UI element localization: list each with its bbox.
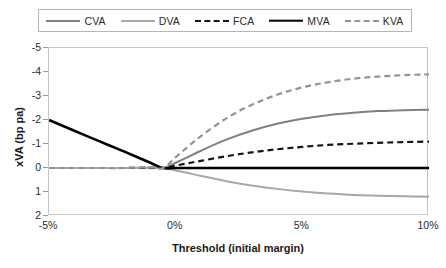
legend-line-fca — [195, 20, 229, 22]
y-tick-mark — [43, 143, 48, 144]
legend-swatch-kva — [345, 16, 379, 26]
legend-entry-fca: FCA — [195, 15, 255, 27]
legend-swatch-fca — [195, 16, 229, 26]
legend-swatch-cva — [46, 16, 80, 26]
legend-line-dva — [121, 20, 155, 22]
x-tick-label: 0% — [167, 219, 182, 231]
y-tick-label: -2 — [32, 113, 41, 125]
y-tick-label: -4 — [32, 65, 41, 77]
y-tick-mark — [43, 191, 48, 192]
y-axis-title: xVA (bp pa) — [13, 82, 25, 192]
series-canvas — [49, 48, 429, 216]
series-line-dva — [49, 168, 429, 197]
y-tick-label: 0 — [35, 161, 41, 173]
x-tick-label: 10% — [417, 219, 438, 231]
y-tick-mark — [43, 167, 48, 168]
series-line-mva — [49, 120, 429, 168]
legend-line-cva — [46, 20, 80, 22]
y-tick-mark — [43, 71, 48, 72]
x-tick-label: -5% — [39, 219, 58, 231]
series-line-fca — [49, 142, 429, 169]
y-tick-label: -5 — [32, 41, 41, 53]
legend-line-mva — [269, 19, 303, 22]
legend-label-dva: DVA — [159, 15, 180, 27]
legend-label-fca: FCA — [233, 15, 255, 27]
plot-area — [48, 47, 428, 215]
y-tick-label: -3 — [32, 89, 41, 101]
y-tick-label: 1 — [35, 185, 41, 197]
x-tick-label: 5% — [294, 219, 309, 231]
legend-entry-dva: DVA — [121, 15, 180, 27]
y-tick-mark — [43, 95, 48, 96]
legend-line-kva — [345, 20, 379, 22]
legend-entry-kva: KVA — [345, 15, 404, 27]
legend-entry-mva: MVA — [269, 15, 330, 27]
y-tick-label: -1 — [32, 137, 41, 149]
y-tick-mark — [43, 47, 48, 48]
legend-label-mva: MVA — [307, 15, 330, 27]
y-tick-mark — [43, 215, 48, 216]
xva-threshold-chart: CVA DVA FCA MVA KVA -5-4-3-2-1012 xVA (b… — [0, 0, 446, 268]
legend-entry-cva: CVA — [46, 15, 105, 27]
legend-label-kva: KVA — [383, 15, 404, 27]
x-axis-title: Threshold (initial margin) — [48, 242, 428, 254]
legend-swatch-dva — [121, 16, 155, 26]
legend-swatch-mva — [269, 16, 303, 26]
y-tick-mark — [43, 119, 48, 120]
legend-label-cva: CVA — [84, 15, 105, 27]
chart-legend: CVA DVA FCA MVA KVA — [38, 9, 412, 32]
series-line-cva — [49, 110, 429, 169]
